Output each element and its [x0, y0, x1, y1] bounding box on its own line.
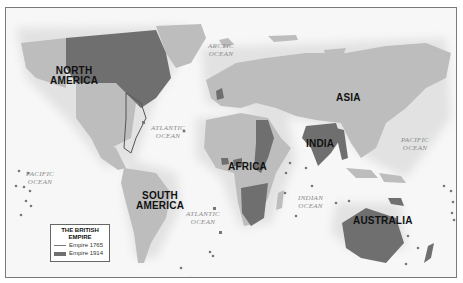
- label-line: OCEAN: [298, 202, 323, 210]
- map-legend: THE BRITISH EMPIRE Empire 1765 Empire 19…: [50, 224, 110, 262]
- british-empire-map: NORTH AMERICA SOUTH AMERICA AFRICA ASIA …: [5, 7, 457, 278]
- legend-title-line: THE BRITISH: [54, 227, 106, 234]
- label-line: OCEAN: [151, 132, 185, 140]
- label-asia: ASIA: [336, 93, 361, 103]
- label-north-america: NORTH AMERICA: [50, 66, 98, 86]
- label-indian-ocean: INDIAN OCEAN: [298, 194, 323, 210]
- label-line: OCEAN: [208, 50, 234, 58]
- label-east-pacific-ocean: PACIFIC OCEAN: [401, 136, 429, 152]
- label-line: ARCTIC: [208, 42, 234, 50]
- legend-title-line: EMPIRE: [54, 234, 106, 241]
- label-india: INDIA: [306, 139, 334, 149]
- legend-item-1914: Empire 1914: [54, 250, 106, 257]
- label-arctic-ocean: ARCTIC OCEAN: [208, 42, 234, 58]
- label-line: OCEAN: [186, 218, 220, 226]
- legend-item-1765: Empire 1765: [54, 242, 106, 249]
- label-line: PACIFIC: [401, 136, 429, 144]
- label-line: AMERICA: [136, 201, 184, 211]
- line-swatch-icon: [54, 245, 66, 246]
- label-australia: AUSTRALIA: [353, 216, 413, 226]
- label-line: PACIFIC: [26, 170, 54, 178]
- legend-title: THE BRITISH EMPIRE: [54, 227, 106, 241]
- label-line: AMERICA: [50, 76, 98, 86]
- label-line: OCEAN: [26, 178, 54, 186]
- label-line: INDIAN: [298, 194, 323, 202]
- label-west-pacific-ocean: PACIFIC OCEAN: [26, 170, 54, 186]
- label-south-america: SOUTH AMERICA: [136, 191, 184, 211]
- fill-swatch-icon: [54, 252, 66, 256]
- legend-label: Empire 1914: [69, 250, 103, 257]
- label-line: ATLANTIC: [151, 124, 185, 132]
- label-africa: AFRICA: [228, 162, 267, 172]
- legend-label: Empire 1765: [69, 242, 103, 249]
- label-north-atlantic-ocean: ATLANTIC OCEAN: [151, 124, 185, 140]
- label-south-atlantic-ocean: ATLANTIC OCEAN: [186, 210, 220, 226]
- label-line: ATLANTIC: [186, 210, 220, 218]
- label-line: OCEAN: [401, 144, 429, 152]
